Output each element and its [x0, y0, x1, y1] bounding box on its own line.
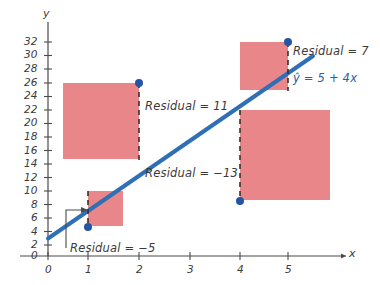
y-tick-label-20: 20 [24, 117, 37, 128]
x-tick-label-4: 4 [237, 264, 244, 275]
residual-square-x4 [240, 110, 330, 200]
residual-label-11: Residual = 11 [145, 101, 228, 113]
residual-square-x2 [63, 83, 139, 159]
data-point-x2 [135, 79, 143, 87]
y-tick-label-2: 2 [31, 239, 38, 250]
x-tick-label-3: 3 [187, 264, 194, 275]
data-point-x4 [236, 197, 244, 205]
data-point-x5 [284, 38, 292, 46]
y-tick-label-4: 4 [31, 226, 38, 237]
y-tick-label-22: 22 [24, 104, 37, 115]
residual-plot [0, 0, 380, 285]
y-tick-label-32: 32 [24, 36, 37, 47]
y-tick-label-10: 10 [24, 185, 37, 196]
residual-label-neg5: Residual = −5 [70, 243, 156, 255]
y-tick-label-8: 8 [31, 199, 38, 210]
y-tick-label-24: 24 [24, 90, 37, 101]
x-tick-label-5: 5 [285, 264, 292, 275]
data-point-x1 [84, 223, 92, 231]
y-tick-label-18: 18 [24, 131, 37, 142]
y-tick-label-28: 28 [24, 63, 37, 74]
y-axis-label: y [43, 8, 50, 19]
regression-equation-label: ŷ = 5 + 4x [293, 73, 357, 85]
residual-label-neg13: Residual = −13 [145, 168, 238, 180]
x-tick-label-0: 0 [45, 264, 52, 275]
y-tick-label-16: 16 [24, 145, 37, 156]
x-axis-arrow [341, 254, 346, 259]
y-tick-label-0: 0 [31, 250, 38, 261]
y-tick-label-30: 30 [24, 49, 37, 60]
x-tick-label-1: 1 [85, 264, 92, 275]
x-tick-label-2: 2 [136, 264, 143, 275]
residual-square-x5 [240, 42, 288, 90]
y-tick-label-26: 26 [24, 77, 37, 88]
y-tick-label-12: 12 [24, 172, 37, 183]
residual-label-7: Residual = 7 [293, 46, 369, 58]
y-tick-label-6: 6 [31, 212, 38, 223]
x-axis-label: x [349, 248, 356, 259]
y-tick-label-14: 14 [24, 158, 37, 169]
